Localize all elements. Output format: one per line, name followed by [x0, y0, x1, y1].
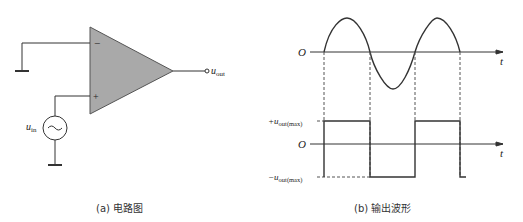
- input-label: uin: [26, 121, 37, 134]
- waveform-caption: (b) 输出波形: [354, 200, 411, 215]
- opamp-triangle-icon: [90, 27, 173, 114]
- waveform-chart: [310, 18, 503, 177]
- noninverting-sign: +: [93, 91, 99, 102]
- output-terminal-icon: [205, 69, 209, 73]
- bottom-origin-label: O: [298, 138, 306, 150]
- output-square-wave: [324, 121, 466, 177]
- noninverting-input-wire: [55, 96, 90, 116]
- top-origin-label: O: [298, 46, 306, 58]
- pos-max-label: +uout(max): [268, 116, 302, 128]
- dashed-guides: [317, 52, 460, 177]
- top-axis-arrow-icon: [496, 50, 503, 54]
- inverting-sign: −: [94, 37, 100, 49]
- inverting-input-wire: [22, 43, 90, 70]
- neg-max-label: −uout(max): [268, 172, 302, 184]
- circuit-diagram: [15, 27, 209, 165]
- figure-canvas: − + uin uout O t O t +uout(max) −uout(ma…: [0, 0, 523, 222]
- input-sine-wave: [324, 18, 460, 89]
- bottom-axis-label: t: [500, 147, 504, 159]
- top-axis-label: t: [500, 55, 504, 67]
- output-label: uout: [211, 65, 225, 78]
- bottom-axis-arrow-icon: [496, 142, 503, 146]
- circuit-caption: (a) 电路图: [96, 200, 143, 215]
